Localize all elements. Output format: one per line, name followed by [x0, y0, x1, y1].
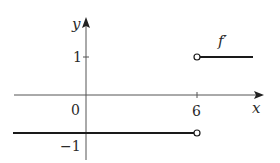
tick-label-x6: 6	[192, 103, 201, 119]
tick-label-yneg1: −1	[60, 138, 81, 154]
graph-canvas: y x 0 6 1 −1 f′	[0, 0, 280, 163]
y-axis-label: y	[71, 15, 81, 33]
open-circle-upper	[194, 54, 200, 60]
origin-label: 0	[71, 102, 80, 118]
x-axis-label: x	[252, 99, 261, 117]
open-circle-lower	[194, 130, 200, 136]
function-label: f′	[217, 32, 228, 50]
tick-label-y1: 1	[73, 49, 82, 65]
